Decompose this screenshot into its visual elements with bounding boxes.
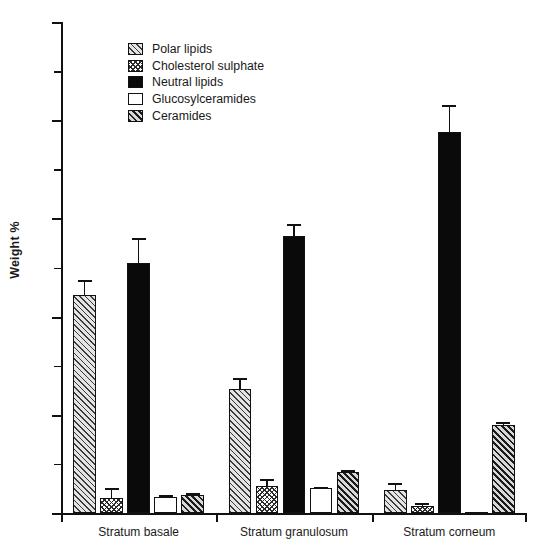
x-axis-end-cap — [525, 513, 527, 522]
x-category-label-0: Stratum basale — [61, 525, 216, 539]
x-category-label-2: Stratum corneum — [372, 525, 527, 539]
legend-label: Polar lipids — [152, 43, 212, 55]
y-tick-minor-30 — [54, 366, 61, 368]
bar-cholesterol-sulphate-2[interactable] — [411, 506, 434, 513]
chart-legend: Polar lipidsCholesterol sulphateNeutral … — [128, 41, 264, 124]
y-tick-minor-90 — [54, 71, 61, 73]
error-bar-cap — [233, 378, 247, 380]
bar-ceramides-2[interactable] — [492, 425, 515, 513]
bar-fill — [73, 295, 96, 513]
y-tick-minor-10 — [54, 464, 61, 466]
error-bar — [320, 487, 322, 488]
x-group-separator-2 — [372, 513, 374, 522]
error-bar-cap — [105, 488, 119, 490]
bar-polar-lipids-0[interactable] — [73, 295, 96, 513]
bar-glucosylceramides-2[interactable] — [465, 512, 488, 513]
bar-fill — [283, 236, 306, 513]
bar-ceramides-1[interactable] — [337, 472, 360, 513]
y-tick-major-20 — [52, 415, 61, 417]
y-tick-major-80 — [52, 120, 61, 122]
bar-fill — [100, 498, 123, 513]
error-bar-cap — [415, 503, 429, 505]
bar-glucosylceramides-0[interactable] — [154, 497, 177, 513]
error-bar-cap — [287, 224, 301, 226]
legend-item-cholesterol-sulphate[interactable]: Cholesterol sulphate — [128, 58, 264, 75]
legend-swatch-icon — [128, 43, 143, 55]
bar-polar-lipids-1[interactable] — [229, 389, 252, 513]
y-tick-major-60 — [52, 218, 61, 220]
error-bar — [347, 470, 349, 472]
legend-item-neutral-lipids[interactable]: Neutral lipids — [128, 74, 264, 91]
bar-fill — [229, 389, 252, 513]
error-bar-cap — [442, 105, 456, 107]
error-bar — [266, 479, 268, 486]
bar-chart: Weight % 020406080100 Stratum basaleStra… — [0, 0, 541, 550]
bar-fill — [384, 490, 407, 513]
legend-label: Cholesterol sulphate — [152, 60, 264, 72]
legend-swatch-icon — [128, 76, 143, 88]
y-tick-major-0 — [52, 513, 61, 515]
bar-fill — [310, 488, 333, 513]
error-bar — [192, 493, 194, 495]
error-bar — [165, 495, 167, 496]
error-bar — [293, 224, 295, 236]
legend-swatch-icon — [128, 110, 143, 122]
legend-label: Ceramides — [152, 110, 211, 122]
legend-swatch-icon — [128, 60, 143, 72]
y-tick-major-40 — [52, 317, 61, 319]
bar-fill — [492, 425, 515, 513]
bar-neutral-lipids-0[interactable] — [127, 263, 150, 513]
error-bar-cap — [78, 280, 92, 282]
bar-fill — [181, 495, 204, 513]
legend-item-polar-lipids[interactable]: Polar lipids — [128, 41, 264, 58]
bar-fill — [256, 486, 279, 513]
error-bar-cap — [314, 487, 328, 489]
bar-cholesterol-sulphate-0[interactable] — [100, 498, 123, 513]
x-group-separator-0 — [61, 513, 63, 522]
y-axis-title: Weight % — [8, 205, 22, 295]
error-bar-cap — [132, 238, 146, 240]
error-bar-cap — [341, 470, 355, 472]
bar-cholesterol-sulphate-1[interactable] — [256, 486, 279, 513]
bar-fill — [465, 512, 488, 514]
error-bar — [422, 503, 424, 505]
legend-item-glucosylceramides[interactable]: Glucosylceramides — [128, 91, 264, 108]
bar-fill — [438, 132, 461, 513]
y-tick-major-100 — [52, 22, 61, 24]
x-category-label-1: Stratum granulosum — [216, 525, 371, 539]
error-bar-cap — [260, 479, 274, 481]
error-bar — [449, 105, 451, 132]
bar-fill — [411, 506, 434, 513]
error-bar — [84, 280, 86, 295]
error-bar — [395, 483, 397, 490]
error-bar-cap — [388, 483, 402, 485]
bar-ceramides-0[interactable] — [181, 495, 204, 513]
bar-glucosylceramides-1[interactable] — [310, 488, 333, 513]
error-bar-cap — [496, 422, 510, 424]
y-axis-line — [61, 22, 63, 515]
x-group-separator-1 — [216, 513, 218, 522]
error-bar — [503, 422, 505, 424]
y-tick-minor-50 — [54, 268, 61, 270]
legend-label: Glucosylceramides — [152, 93, 256, 105]
error-bar-cap — [159, 495, 173, 497]
legend-swatch-icon — [128, 93, 143, 105]
error-bar — [138, 238, 140, 263]
x-axis-line — [61, 513, 527, 515]
bar-fill — [154, 497, 177, 513]
legend-item-ceramides[interactable]: Ceramides — [128, 107, 264, 124]
legend-label: Neutral lipids — [152, 76, 223, 88]
bar-neutral-lipids-1[interactable] — [283, 236, 306, 513]
bar-polar-lipids-2[interactable] — [384, 490, 407, 513]
error-bar-cap — [186, 493, 200, 495]
error-bar — [239, 378, 241, 389]
y-tick-minor-70 — [54, 169, 61, 171]
error-bar — [111, 488, 113, 498]
bar-neutral-lipids-2[interactable] — [438, 132, 461, 513]
bar-fill — [337, 472, 360, 513]
bar-fill — [127, 263, 150, 513]
